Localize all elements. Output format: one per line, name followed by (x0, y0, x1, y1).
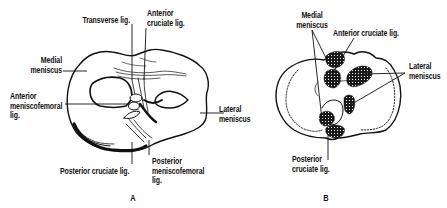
figure-b-attachment-areas (319, 52, 372, 139)
label-lateral-meniscus-a: Lateral meniscus (219, 105, 251, 124)
label-anterior-cruciate-lig-a: Anterior cruciate lig. (147, 9, 185, 28)
figure-b-leader-lines (312, 30, 405, 160)
label-medial-meniscus-b: Medial meniscus (295, 11, 329, 30)
label-text: meniscus (295, 21, 329, 31)
label-posterior-cruciate-lig-b: Posterior cruciate lig. (292, 155, 330, 174)
label-text: Anterior cruciate lig. (333, 28, 399, 38)
label-text: lig. (10, 111, 62, 121)
figure-a-tibial-plateau (67, 49, 208, 150)
label-anterior-cruciate-lig-b: Anterior cruciate lig. (333, 29, 399, 39)
label-text: Transverse lig. (82, 15, 130, 25)
label-transverse-lig: Transverse lig. (73, 16, 130, 26)
label-text: lig. (152, 176, 204, 186)
label-posterior-cruciate-lig-a: Posterior cruciate lig. (60, 167, 129, 177)
label-text: A (130, 193, 135, 203)
label-text: cruciate lig. (292, 165, 330, 175)
label-text: cruciate lig. (147, 19, 185, 29)
label-text: meniscus (219, 115, 251, 125)
label-text: meniscus (19, 66, 62, 76)
label-medial-meniscus-a: Medial meniscus (19, 56, 62, 75)
label-anterior-meniscofemoral-lig: Anterior meniscofemoral lig. (10, 92, 62, 121)
panel-label-b: B (322, 194, 330, 204)
label-posterior-meniscofemoral-lig: Posterior meniscofemoral lig. (152, 157, 204, 186)
figure-a-leader-lines (63, 24, 224, 164)
panel-label-a: A (129, 194, 137, 204)
label-text: meniscus (409, 72, 441, 82)
label-lateral-meniscus-b: Lateral meniscus (409, 62, 441, 81)
label-text: Posterior cruciate lig. (60, 166, 129, 176)
label-text: B (323, 193, 328, 203)
